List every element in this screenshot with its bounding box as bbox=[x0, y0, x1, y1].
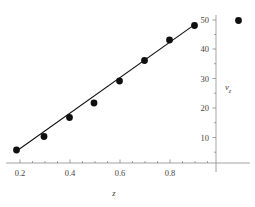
data-point bbox=[13, 147, 20, 154]
y-tick-label-2: 30 bbox=[201, 74, 210, 84]
y-tick-label-3: 40 bbox=[201, 44, 210, 54]
y-tick-label-0: 10 bbox=[201, 133, 210, 143]
y-axis-group: 50 40 30 20 10 vz bbox=[201, 15, 232, 172]
data-point bbox=[66, 114, 73, 121]
data-point bbox=[41, 133, 48, 140]
x-tick-label-0: 0.2 bbox=[15, 168, 26, 178]
data-point bbox=[191, 22, 198, 29]
y-tick-label-4: 50 bbox=[201, 15, 210, 25]
x-axis-group: 0.2 0.4 0.6 0.8 z bbox=[6, 160, 250, 199]
y-axis-title-subscript: z bbox=[228, 88, 232, 94]
data-point bbox=[235, 17, 242, 24]
y-axis-title: vz bbox=[225, 82, 232, 94]
x-tick-label-3: 0.8 bbox=[165, 168, 176, 178]
y-tick-label-1: 20 bbox=[201, 103, 210, 113]
data-point bbox=[141, 57, 148, 64]
data-point bbox=[166, 37, 173, 44]
scatter-plot-figure: 0.2 0.4 0.6 0.8 z 50 40 30 20 10 vz bbox=[0, 0, 255, 207]
data-point bbox=[116, 78, 123, 85]
x-tick-label-1: 0.4 bbox=[65, 168, 76, 178]
x-tick-label-2: 0.6 bbox=[115, 168, 126, 178]
x-axis-title: z bbox=[111, 188, 116, 198]
plot-canvas: 0.2 0.4 0.6 0.8 z 50 40 30 20 10 vz bbox=[0, 0, 255, 207]
data-point bbox=[91, 100, 98, 107]
